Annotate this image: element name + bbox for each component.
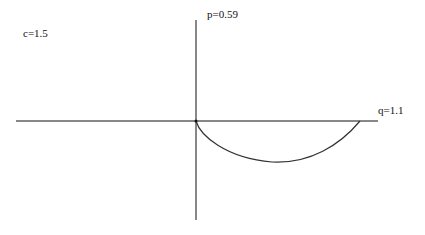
p-label: p=0.59 [207, 8, 238, 20]
origin-point [195, 120, 198, 123]
c-label: c=1.5 [23, 27, 48, 39]
q-label: q=1.1 [378, 104, 403, 116]
curve [196, 121, 360, 162]
diagram-canvas [0, 0, 425, 235]
